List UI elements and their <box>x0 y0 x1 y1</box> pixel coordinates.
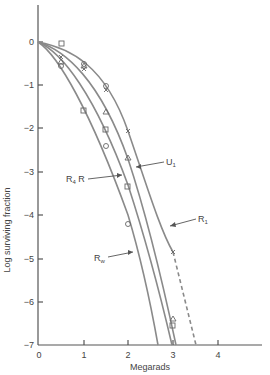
x-tick-label: 3 <box>170 350 175 360</box>
y-tick-label: −6 <box>24 297 34 307</box>
marker-square <box>59 41 64 46</box>
y-tick-label: −5 <box>24 254 34 264</box>
curve-r1-dashed <box>173 252 196 345</box>
marker-circle <box>104 144 109 149</box>
curve-rw <box>38 42 158 345</box>
x-tick-label: 0 <box>36 350 41 360</box>
y-tick-label: −1 <box>24 80 34 90</box>
annotation-arrows <box>88 162 196 257</box>
x-tick-label: 1 <box>81 350 86 360</box>
y-tick-label: −2 <box>24 123 34 133</box>
curve-r1 <box>38 42 173 252</box>
y-tick-label: −7 <box>24 340 34 350</box>
x-tick-labels: 0 1 2 3 4 <box>36 350 220 360</box>
y-tick-label: 0 <box>29 37 34 47</box>
marker-circle <box>126 222 131 227</box>
x-axis-title: Megarads <box>130 362 171 372</box>
y-tick-label: −4 <box>24 210 34 220</box>
label-rw: Rw <box>94 253 106 264</box>
y-tick-label: −3 <box>24 167 34 177</box>
curves <box>38 42 196 345</box>
curve-r4r <box>38 42 172 345</box>
x-tick-label: 4 <box>215 350 220 360</box>
y-tick-labels: 0 −1 −2 −3 −4 −5 −6 −7 <box>24 37 34 350</box>
y-axis-title: Log surviving fraction <box>2 187 12 272</box>
arrow-r4r <box>88 175 122 179</box>
label-u1: U1 <box>166 157 177 168</box>
label-r1: R1 <box>198 214 209 225</box>
x-tick-label: 2 <box>125 350 130 360</box>
survival-chart: 0 −1 −2 −3 −4 −5 −6 −7 0 1 2 3 4 Megarad… <box>0 0 270 375</box>
label-r4r: R4 R <box>66 174 85 185</box>
